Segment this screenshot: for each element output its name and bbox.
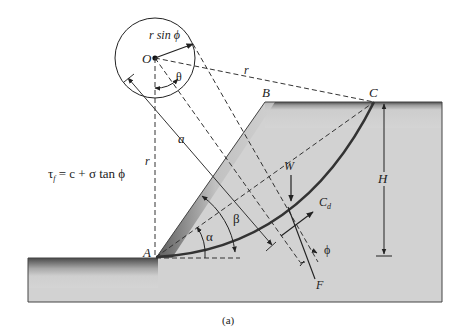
label-theta: θ	[176, 70, 182, 84]
label-F: F	[315, 278, 324, 292]
label-A: A	[142, 245, 151, 260]
slope-stability-diagram: O r sin ϕ θ r r a B C A α β W Cd ϕ F H τ…	[0, 0, 464, 334]
label-W: W	[284, 159, 295, 173]
label-H: H	[377, 171, 388, 186]
label-a: a	[178, 131, 185, 146]
label-C: C	[369, 85, 378, 100]
theta-arc	[155, 79, 178, 88]
label-beta: β	[233, 211, 240, 226]
label-O: O	[142, 51, 152, 66]
label-r-top: r	[244, 63, 249, 77]
label-r-sin-phi: r sin ϕ	[149, 28, 180, 42]
figure-caption: (a)	[222, 314, 235, 327]
label-phi: ϕ	[324, 243, 330, 257]
shear-strength-equation: τf = c + σ tan ϕ	[48, 166, 125, 183]
label-alpha: α	[206, 229, 213, 244]
label-B: B	[262, 85, 270, 100]
r-sin-phi-arrow	[155, 44, 193, 58]
label-r-left: r	[145, 154, 150, 168]
